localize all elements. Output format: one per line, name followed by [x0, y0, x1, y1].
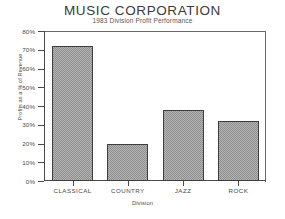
x-axis-title: Division [0, 200, 285, 206]
bar-chart: MUSIC CORPORATION 1983 Division Profit P… [0, 0, 285, 219]
x-axis-tick [238, 181, 239, 186]
y-axis-tick [38, 144, 44, 145]
bar-rock [218, 121, 259, 181]
y-axis-tick [38, 125, 44, 126]
bar-classical [52, 46, 93, 181]
x-axis-tick [73, 181, 74, 186]
y-axis-tick [38, 106, 44, 107]
y-axis-tick-label: 0% [5, 178, 35, 185]
y-axis-tick [38, 162, 44, 163]
chart-subtitle: 1983 Division Profit Performance [0, 17, 285, 24]
y-axis-title: Profits as a % of Revenue [17, 27, 23, 147]
bar-jazz [163, 110, 204, 181]
bar-series [45, 31, 266, 181]
x-axis-tick [183, 181, 184, 186]
x-axis-tick-label: ROCK [203, 187, 273, 194]
bar-country [107, 144, 148, 182]
y-axis-tick-label: 10% [5, 159, 35, 166]
y-axis-tick [38, 69, 44, 70]
x-axis-tick [128, 181, 129, 186]
y-axis-tick [38, 87, 44, 88]
y-axis-tick [38, 31, 44, 32]
y-axis-tick [38, 181, 44, 182]
y-axis-tick [38, 50, 44, 51]
chart-title: MUSIC CORPORATION [0, 3, 285, 18]
